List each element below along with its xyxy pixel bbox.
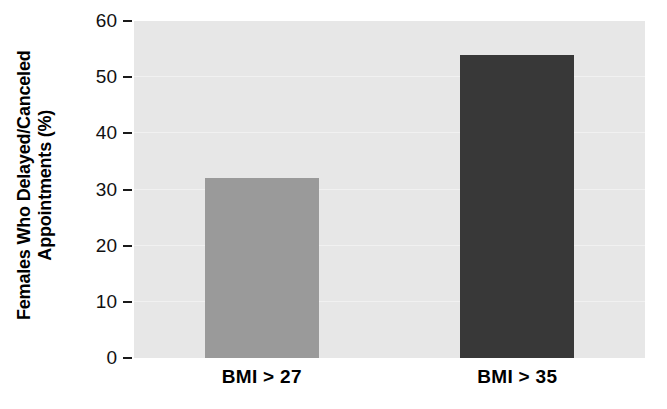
y-axis-tick: 50 bbox=[96, 67, 134, 87]
y-axis-tick: 30 bbox=[96, 180, 134, 200]
y-axis-tick-label: 20 bbox=[96, 235, 117, 257]
y-axis-tick-mark bbox=[123, 245, 132, 247]
y-axis-tick: 40 bbox=[96, 123, 134, 143]
y-axis-tick-mark bbox=[123, 189, 132, 191]
y-axis-title-line-2: Appointments (%) bbox=[35, 50, 56, 320]
y-axis-tick: 0 bbox=[106, 348, 134, 368]
y-axis-tick-label: 0 bbox=[106, 347, 117, 369]
x-axis-tick-labels: BMI > 27BMI > 35 bbox=[134, 366, 645, 402]
y-axis-tick: 20 bbox=[96, 236, 134, 256]
y-axis-tick-label: 40 bbox=[96, 122, 117, 144]
x-axis-tick-label: BMI > 27 bbox=[134, 366, 390, 388]
y-axis-tick-label: 30 bbox=[96, 179, 117, 201]
y-axis-title-text: Females Who Delayed/Canceled Appointment… bbox=[14, 50, 56, 320]
bar bbox=[205, 178, 319, 358]
y-axis-tick-label: 60 bbox=[96, 10, 117, 32]
y-axis-tick-label: 50 bbox=[96, 66, 117, 88]
x-axis-tick-label: BMI > 35 bbox=[390, 366, 646, 388]
y-axis-tick: 10 bbox=[96, 292, 134, 312]
y-axis-tick-mark bbox=[123, 132, 132, 134]
y-axis-tick-label: 10 bbox=[96, 291, 117, 313]
y-axis-title: Females Who Delayed/Canceled Appointment… bbox=[0, 0, 70, 370]
bar-chart-figure: Females Who Delayed/Canceled Appointment… bbox=[0, 0, 667, 409]
y-axis-tick-mark bbox=[123, 301, 132, 303]
y-axis-tick-mark bbox=[123, 76, 132, 78]
y-axis-tick-mark bbox=[123, 20, 132, 22]
bar bbox=[460, 55, 574, 358]
y-axis-tick: 60 bbox=[96, 11, 134, 31]
y-axis-title-line-1: Females Who Delayed/Canceled bbox=[14, 50, 35, 320]
plot-area bbox=[134, 21, 645, 358]
y-axis-tick-labels: 0102030405060 bbox=[78, 0, 134, 409]
y-axis-tick-mark bbox=[123, 357, 132, 359]
